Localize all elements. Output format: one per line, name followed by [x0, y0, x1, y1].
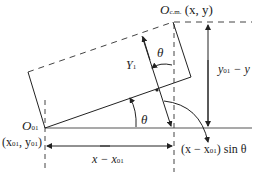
o01-coords: (x01, y01)	[2, 136, 42, 148]
dx-sub: 01	[117, 157, 124, 165]
o01-coords-mid: , y	[19, 135, 31, 149]
ocm-coords: (x, y)	[185, 2, 213, 17]
projection-arc	[164, 101, 208, 142]
dy-label: y01 − y	[218, 63, 250, 75]
o01-coords-open: (x	[2, 135, 12, 149]
theta-bottom-label: θ	[141, 113, 147, 126]
theta-top-label: θ	[157, 46, 163, 59]
dx-x: x − x	[92, 152, 117, 166]
diagram-canvas	[0, 0, 256, 189]
theta-arc-top	[152, 64, 172, 68]
proj-open: (x − x	[181, 142, 210, 156]
o01-coords-sub2: 01	[31, 140, 38, 148]
intersection-point	[155, 88, 158, 91]
theta-arc-bottom	[130, 98, 136, 127]
y1-top-arrow	[143, 37, 150, 60]
y1-sub: 1	[133, 63, 137, 71]
o01-sub: 01	[31, 124, 38, 132]
rect-right-side	[173, 22, 191, 77]
ocm-label: Oc.m. (x, y)	[160, 3, 213, 16]
proj-close: ) sin θ	[217, 142, 247, 156]
o01-O: O	[22, 118, 31, 133]
dy-rest: − y	[230, 62, 249, 76]
ocm-sub: c.m.	[169, 8, 181, 16]
proj-sub: 01	[210, 147, 217, 155]
projection-label: (x − x01) sin θ	[181, 143, 247, 155]
o01-coords-close: )	[38, 135, 42, 149]
dx-label: x − x01	[92, 153, 124, 165]
y1-Y: Y	[126, 58, 133, 72]
o01-coords-sub1: 01	[12, 140, 19, 148]
o01-label: O01	[22, 119, 38, 132]
ocm-O: O	[160, 2, 169, 17]
y1-label: Y1	[126, 59, 136, 71]
